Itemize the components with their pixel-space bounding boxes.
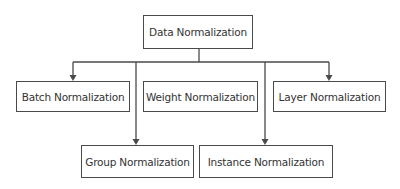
node-label: Weight Normalization xyxy=(146,91,255,103)
node-weight-normalization: Weight Normalization xyxy=(143,81,258,112)
node-label: Data Normalization xyxy=(149,26,247,38)
node-layer-normalization: Layer Normalization xyxy=(273,81,386,112)
node-label: Group Normalization xyxy=(85,156,189,168)
node-label: Layer Normalization xyxy=(279,91,381,103)
node-instance-normalization: Instance Normalization xyxy=(199,145,333,178)
node-label: Instance Normalization xyxy=(208,156,325,168)
node-group-normalization: Group Normalization xyxy=(81,145,194,178)
node-batch-normalization: Batch Normalization xyxy=(16,81,130,112)
node-data-normalization: Data Normalization xyxy=(143,15,253,49)
node-label: Batch Normalization xyxy=(22,91,125,103)
